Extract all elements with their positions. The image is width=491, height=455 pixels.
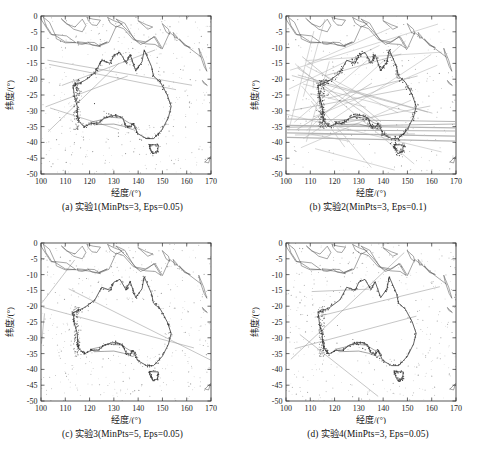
noise-point [347, 54, 348, 55]
noise-point [70, 127, 71, 128]
noise-point [70, 308, 71, 309]
cluster-point [145, 365, 146, 366]
noise-point [159, 354, 160, 355]
noise-point [95, 251, 96, 252]
cluster-point [124, 61, 125, 62]
cluster-point [402, 151, 403, 152]
cluster-point [355, 288, 356, 289]
plot-c-svg: 1001101201301401501601700-5-10-15-20-25-… [0, 227, 245, 424]
coastline-segment [383, 248, 398, 257]
noise-point [170, 318, 171, 319]
cluster-point [96, 349, 97, 350]
noise-point [311, 51, 312, 52]
cluster-point [74, 320, 75, 321]
noise-point [51, 262, 52, 263]
cluster-point [78, 311, 79, 312]
noise-point [310, 40, 311, 41]
noise-point [72, 288, 73, 289]
noise-point [418, 363, 419, 364]
noise-point [415, 89, 416, 90]
cluster-point [403, 376, 404, 377]
x-axis-title: 经度/(°) [111, 187, 141, 197]
noise-point [62, 50, 63, 51]
cluster-point [115, 341, 116, 342]
cluster-point [401, 377, 402, 378]
cluster-point [135, 353, 136, 354]
noise-point [319, 368, 320, 369]
cluster-point [325, 123, 326, 124]
y-tick-label: -5 [276, 28, 283, 37]
panel-c: 1001101201301401501601700-5-10-15-20-25-… [0, 227, 245, 455]
noise-point [68, 103, 69, 104]
cluster-point [77, 321, 78, 322]
noise-point [336, 132, 337, 133]
noise-point [49, 82, 50, 83]
cluster-point [325, 80, 326, 81]
cluster-point [159, 307, 160, 308]
cluster-point [73, 106, 74, 107]
cluster-point [152, 151, 153, 152]
noise-point [85, 33, 86, 34]
cluster-point [83, 125, 84, 126]
cluster-point [401, 79, 402, 80]
noise-point [393, 247, 394, 248]
coastline-segment [429, 414, 430, 416]
cluster-point [101, 348, 102, 349]
cluster-point [323, 309, 324, 310]
cluster-point [79, 91, 80, 92]
noise-point [361, 278, 362, 279]
noise-point [65, 373, 66, 374]
coastline-segment [62, 19, 86, 32]
noise-point [96, 171, 97, 172]
cluster-point [321, 101, 322, 102]
x-tick-label: 130 [353, 404, 365, 413]
noise-point [411, 83, 412, 84]
noise-point [160, 19, 161, 20]
coastline-segment [448, 308, 453, 313]
cluster-point [76, 317, 77, 318]
noise-point [292, 387, 293, 388]
noise-point [188, 398, 189, 399]
noise-point [202, 296, 203, 297]
cluster-point [369, 123, 370, 124]
noise-point [132, 48, 133, 49]
noise-point [65, 363, 66, 364]
cluster-point [124, 124, 125, 125]
noise-point [207, 44, 208, 45]
cluster-point [94, 103, 95, 104]
cluster-point [75, 356, 76, 357]
cluster-point [365, 119, 366, 120]
noise-point [89, 361, 90, 362]
noise-point [199, 69, 200, 70]
cluster-point [355, 113, 356, 114]
cluster-point [140, 363, 141, 364]
coastline-segment [199, 49, 207, 72]
cluster-point [149, 366, 150, 367]
cluster-point [320, 338, 321, 339]
noise-point [122, 155, 123, 156]
noise-point [429, 350, 430, 351]
noise-point [169, 306, 170, 307]
cluster-point [375, 351, 376, 352]
cluster-point [323, 111, 324, 112]
noise-point [373, 264, 374, 265]
noise-point [130, 393, 131, 394]
noise-point [288, 391, 289, 392]
noise-point [81, 118, 82, 119]
noise-point [111, 155, 112, 156]
cluster-point [111, 62, 112, 63]
cluster-point [76, 356, 77, 357]
y-tick-label: -5 [31, 28, 38, 37]
noise-point [438, 314, 439, 315]
noise-point [206, 354, 207, 355]
cluster-point [148, 144, 149, 145]
cluster-point [409, 94, 410, 95]
cluster-point [350, 346, 351, 347]
cluster-point [326, 351, 327, 352]
noise-point [354, 58, 355, 59]
cluster-point [345, 347, 346, 348]
noise-point [63, 347, 64, 348]
cluster-point [77, 352, 78, 353]
cluster-point [321, 345, 322, 346]
cluster-point [391, 55, 392, 56]
